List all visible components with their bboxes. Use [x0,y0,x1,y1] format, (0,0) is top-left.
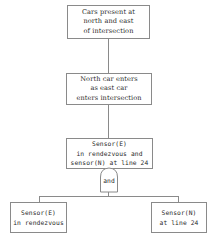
node-text: Sensor(E) [21,208,56,217]
node-text: as east car [90,84,127,93]
node-text: of intersection [83,27,133,36]
intermediate-event-box: North car enters as east car enters inte… [66,73,152,105]
connector-bus-horizontal [39,196,179,197]
node-text: Sensor(E) [92,139,127,148]
node-text: in rendezvous and [76,149,142,158]
leaf-event-box-right: Sensor(N) at line 24 [151,202,207,233]
sensor-event-box: Sensor(E) in rendezvous and sensor(N) at… [66,138,153,169]
connector-middle-sensor [108,104,109,138]
leaf-event-box-left: Sensor(E) in rendezvous [10,202,67,233]
top-event-box: Cars present at north and east of inters… [67,5,150,39]
node-text: enters intersection [76,94,141,103]
node-text: north and east [83,17,133,26]
and-gate-label: and [99,177,119,184]
node-text: Sensor(N) [161,208,196,217]
node-text: at line 24 [160,218,199,227]
node-text: Cars present at [82,8,135,17]
node-text: in rendezvous [13,218,64,227]
node-text: North car enters [80,75,138,84]
connector-top-middle [108,38,109,73]
